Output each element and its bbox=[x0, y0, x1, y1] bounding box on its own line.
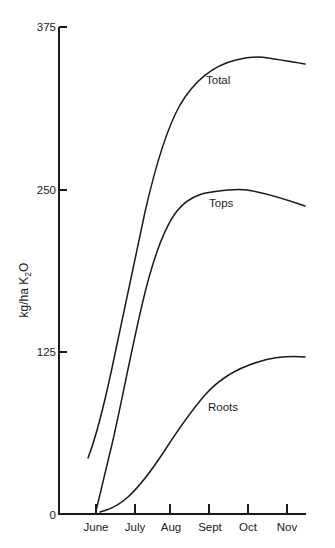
y-axis-label-0: 0 bbox=[50, 509, 56, 521]
series-label-tops: Tops bbox=[209, 197, 234, 209]
curve-total bbox=[88, 57, 305, 458]
y-axis-title: kg/ha K2O bbox=[17, 263, 33, 318]
y-tick-labels: 375 250 125 0 bbox=[37, 21, 56, 521]
y-axis-title-prefix: kg/ha K bbox=[17, 277, 31, 318]
x-axis-label-nov: Nov bbox=[277, 521, 298, 533]
curve-roots bbox=[100, 357, 305, 512]
line-chart-canvas: 375 250 125 0 June July Aug Sept Oct Nov… bbox=[0, 0, 335, 548]
x-axis-label-july: July bbox=[125, 521, 146, 533]
chart-figure: 375 250 125 0 June July Aug Sept Oct Nov… bbox=[0, 0, 335, 548]
x-axis-label-sept: Sept bbox=[198, 521, 222, 533]
y-axis-title-suffix: O bbox=[17, 263, 31, 272]
y-axis-label-375: 375 bbox=[37, 21, 56, 33]
x-axis-label-aug: Aug bbox=[161, 521, 181, 533]
series-label-roots: Roots bbox=[208, 401, 238, 413]
curve-tops bbox=[96, 189, 305, 511]
x-tick-labels: June July Aug Sept Oct Nov bbox=[84, 521, 298, 533]
x-axis-label-june: June bbox=[84, 521, 109, 533]
series-label-total: Total bbox=[206, 74, 230, 86]
y-axis-title-group: kg/ha K2O bbox=[17, 263, 33, 318]
y-axis-label-250: 250 bbox=[37, 184, 56, 196]
y-axis-label-125: 125 bbox=[37, 346, 56, 358]
x-axis-label-oct: Oct bbox=[239, 521, 258, 533]
